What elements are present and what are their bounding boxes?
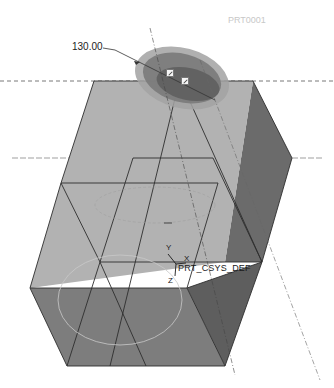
- csys-y-label: Y: [166, 244, 171, 252]
- csys-label[interactable]: PRT_CSYS_DEF: [178, 264, 251, 273]
- drag-handle-1[interactable]: [166, 69, 174, 77]
- dimension-value[interactable]: 130.00: [72, 42, 103, 52]
- front-face[interactable]: [30, 81, 253, 288]
- csys-x-label: X: [184, 255, 189, 263]
- model-name-label: PRT0001: [228, 16, 266, 25]
- model-canvas[interactable]: [0, 0, 334, 388]
- csys-z-label: Z: [168, 277, 173, 285]
- drag-handle-2[interactable]: [181, 77, 189, 85]
- graphics-viewport[interactable]: PRT0001 130.00 Y X Z PRT_CSYS_DEF: [0, 0, 334, 388]
